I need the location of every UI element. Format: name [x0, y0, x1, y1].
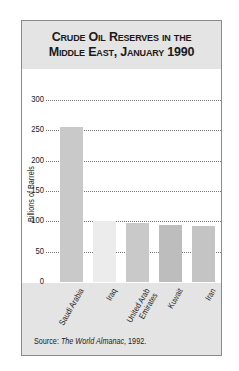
source-suffix: , 1992.: [124, 336, 146, 346]
bars: [22, 69, 221, 283]
x-label-saudi-arabia: Saudi Arabia: [48, 287, 86, 343]
y-tick-250: 250: [30, 125, 44, 134]
title-line-2: Middle East, January 1990: [22, 45, 221, 60]
source-prefix: Source:: [34, 336, 61, 346]
bar-iran: [192, 226, 215, 282]
chart-frame: Crude Oil Reserves in the Middle East, J…: [21, 20, 222, 356]
x-label-iran: Iran: [180, 287, 218, 343]
y-tick-150: 150: [30, 186, 44, 195]
chart-title: Crude Oil Reserves in the Middle East, J…: [22, 21, 221, 60]
source-work: The World Almanac: [61, 336, 124, 346]
y-tick-100: 100: [30, 216, 44, 225]
y-tick-50: 50: [30, 247, 44, 256]
y-tick-300: 300: [30, 95, 44, 104]
bar-saudi-arabia: [60, 127, 83, 282]
x-label-iraq: Iraq: [81, 287, 119, 343]
title-band: Crude Oil Reserves in the Middle East, J…: [22, 21, 221, 69]
source-note: Source: The World Almanac, 1992.: [34, 336, 146, 346]
bar-united-arab-emirates: [126, 223, 149, 282]
bar-iraq: [93, 221, 116, 282]
y-tick-0: 0: [30, 277, 44, 286]
y-tick-200: 200: [30, 156, 44, 165]
plot-area: Billions of Barrels 050100150200250300: [22, 69, 221, 283]
bar-kuwait: [159, 225, 182, 282]
title-line-1: Crude Oil Reserves in the: [22, 30, 221, 45]
